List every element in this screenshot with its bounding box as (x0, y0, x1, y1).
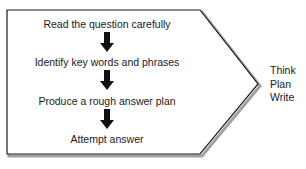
step-label-identify-keywords: Identify key words and phrases (0, 56, 214, 68)
step-label-attempt-answer: Attempt answer (0, 133, 214, 145)
outcome-label-write: Write (270, 91, 296, 105)
outcome-labels: Think Plan Write (270, 64, 296, 105)
outcome-label-plan: Plan (270, 78, 296, 92)
step-label-rough-plan: Produce a rough answer plan (0, 95, 214, 107)
outcome-label-think: Think (270, 64, 296, 78)
step-label-read-question: Read the question carefully (0, 18, 214, 30)
